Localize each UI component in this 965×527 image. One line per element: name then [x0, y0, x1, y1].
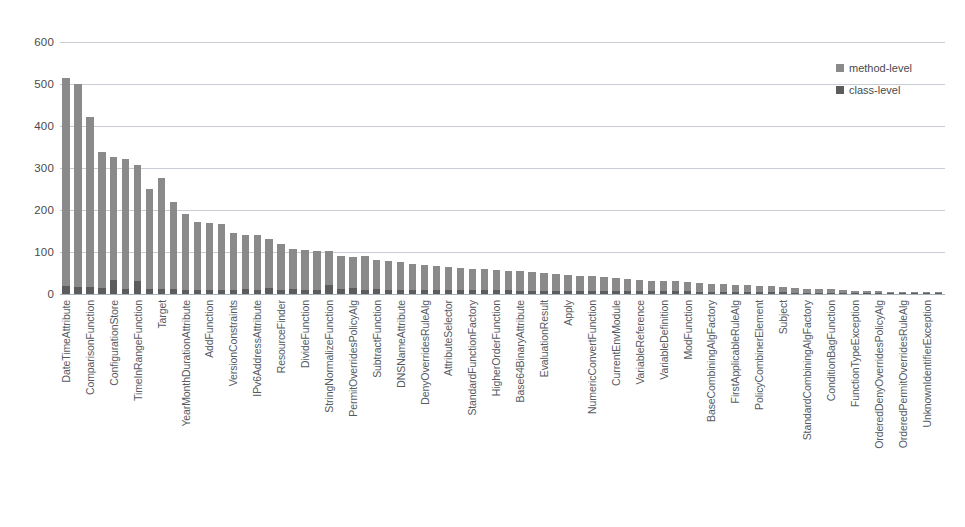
bar-stack [110, 157, 117, 294]
bar-segment-method-level [86, 117, 93, 288]
legend-swatch-method-level-icon [836, 64, 844, 72]
x-label-slot: BaseCombiningAlgFactory [705, 296, 717, 524]
bar-column [646, 42, 658, 294]
bar-segment-method-level [218, 224, 225, 290]
x-label-slot [239, 296, 251, 524]
bar-column [502, 42, 514, 294]
x-tick-label: AttributeSelector [442, 300, 454, 376]
bar-stack [588, 276, 595, 294]
bar-column [610, 42, 622, 294]
x-label-slot [646, 296, 658, 524]
x-label-slot [359, 296, 371, 524]
x-label-slot: ComparisonFunction [84, 296, 96, 524]
x-label-slot: PermitOverridesPolicyAlg [347, 296, 359, 524]
bar-stack [768, 286, 775, 294]
bar-segment-method-level [421, 265, 428, 290]
bar-stack [493, 270, 500, 294]
bar-column [227, 42, 239, 294]
bar-column [753, 42, 765, 294]
bar-segment-method-level [612, 278, 619, 291]
bar-stack [325, 251, 332, 294]
bar-chart: 0100200300400500600 DateTimeAttributeCom… [0, 0, 965, 527]
bar-column [168, 42, 180, 294]
bar-segment-method-level [98, 152, 105, 289]
x-tick-label: EvaluationResult [538, 300, 550, 377]
x-label-slot: Apply [562, 296, 574, 524]
bar-column [96, 42, 108, 294]
bar-segment-method-level [481, 269, 488, 290]
bar-segment-method-level [600, 277, 607, 290]
bar-stack [158, 178, 165, 294]
bar-stack [361, 256, 368, 294]
bar-segment-method-level [564, 275, 571, 291]
bar-segment-method-level [254, 235, 261, 290]
bar-segment-class-level [134, 281, 141, 294]
bar-column [120, 42, 132, 294]
x-label-slot [813, 296, 825, 524]
bar-stack [505, 271, 512, 295]
bar-column [921, 42, 933, 294]
x-tick-label: StandardCombiningAlgFactory [801, 300, 813, 440]
bar-column [156, 42, 168, 294]
bar-stack [636, 280, 643, 294]
bar-segment-class-level [325, 285, 332, 294]
bar-column [729, 42, 741, 294]
x-label-slot: Target [156, 296, 168, 524]
bar-column [598, 42, 610, 294]
x-tick-label: CurrentEnvModule [610, 300, 622, 386]
bar-segment-method-level [397, 262, 404, 290]
x-tick-label: ComparisonFunction [84, 300, 96, 395]
x-label-slot: IPv6AddressAttribute [251, 296, 263, 524]
bar-segment-method-level [242, 235, 249, 289]
bar-segment-method-level [158, 178, 165, 289]
bar-segment-method-level [708, 284, 715, 292]
bar-segment-method-level [469, 269, 476, 290]
bar-stack [684, 282, 691, 294]
x-tick-label: NumericConvertFunction [586, 300, 598, 414]
bar-column [287, 42, 299, 294]
bar-stack [182, 214, 189, 294]
bar-stack [421, 265, 428, 294]
bar-segment-method-level [457, 268, 464, 290]
bar-segment-class-level [110, 280, 117, 294]
y-tick-label-100: 100 [8, 246, 54, 258]
x-label-slot [933, 296, 945, 524]
bar-stack [516, 271, 523, 294]
x-label-slot [550, 296, 562, 524]
bar-segment-method-level [289, 249, 296, 289]
bar-segment-method-level [720, 284, 727, 292]
legend-label-method-level: method-level [849, 62, 912, 74]
bar-segment-method-level [576, 276, 583, 291]
bar-column [407, 42, 419, 294]
bar-column [694, 42, 706, 294]
bar-segment-method-level [62, 78, 69, 287]
x-label-slot: AddFunction [203, 296, 215, 524]
bar-stack [218, 224, 225, 294]
bar-segment-method-level [337, 256, 344, 289]
bar-stack [349, 257, 356, 294]
bar-segment-method-level [756, 286, 763, 293]
x-label-slot [478, 296, 490, 524]
bar-segment-method-level [301, 250, 308, 290]
bar-series-container [60, 42, 945, 294]
bar-segment-method-level [433, 266, 440, 290]
bar-segment-method-level [146, 189, 153, 289]
bar-stack [337, 256, 344, 294]
bar-column [311, 42, 323, 294]
x-label-slot: Base64BinaryAttribute [514, 296, 526, 524]
bar-segment-method-level [313, 251, 320, 290]
x-tick-label: DenyOverridesRuleAlg [419, 300, 431, 405]
bar-column [239, 42, 251, 294]
bar-column [622, 42, 634, 294]
x-label-slot: HigherOrderFunction [490, 296, 502, 524]
x-label-slot [741, 296, 753, 524]
bar-stack [397, 262, 404, 294]
bar-column [275, 42, 287, 294]
x-tick-label: StringNormalizeFunction [323, 300, 335, 413]
bar-segment-method-level [624, 279, 631, 292]
x-tick-label: TimeInRangeFunction [132, 300, 144, 401]
x-tick-label: PolicyCombinerElement [753, 300, 765, 410]
bar-stack [732, 285, 739, 294]
bar-column [60, 42, 72, 294]
x-label-slot [454, 296, 466, 524]
